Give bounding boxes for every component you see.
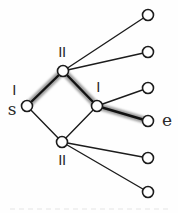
tick-top: II — [58, 44, 65, 60]
edge-layer — [27, 15, 148, 192]
label-e: e — [162, 110, 172, 130]
node-top — [58, 66, 69, 77]
edge-top-mid — [63, 71, 97, 106]
figure-graph-diagram: IIIsIeII — [0, 0, 178, 213]
tick-bottom: II — [58, 152, 65, 168]
node-leaf2 — [143, 47, 154, 58]
node-leaf1 — [143, 10, 154, 21]
tick-mid: I — [96, 79, 100, 95]
tick-s: I — [12, 82, 16, 98]
edge-mid-leaf3 — [97, 88, 148, 106]
node-layer — [22, 10, 154, 198]
node-leaf3 — [143, 83, 154, 94]
edge-s-bottom — [27, 106, 62, 142]
node-bottom — [57, 137, 68, 148]
node-leaf5 — [143, 187, 154, 198]
node-e — [143, 116, 154, 127]
node-s — [22, 101, 33, 112]
node-leaf4 — [143, 153, 154, 164]
label-s: s — [8, 99, 17, 119]
edge-s-top — [27, 71, 63, 106]
graph-svg: IIIsIeII — [0, 0, 178, 213]
edge-top-leaf2 — [63, 52, 148, 71]
edge-bottom-mid — [62, 106, 97, 142]
node-mid — [92, 101, 103, 112]
edge-mid-e — [97, 106, 148, 121]
edge-top-leaf1 — [63, 15, 148, 71]
